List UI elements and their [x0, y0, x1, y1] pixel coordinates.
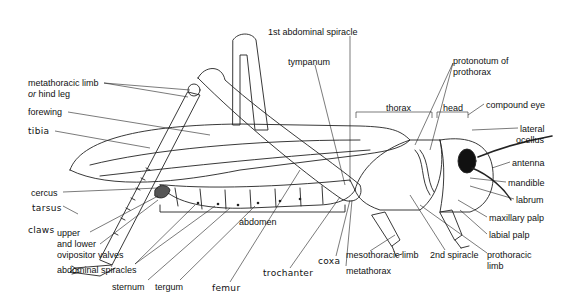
- leader-lines: [0, 0, 580, 308]
